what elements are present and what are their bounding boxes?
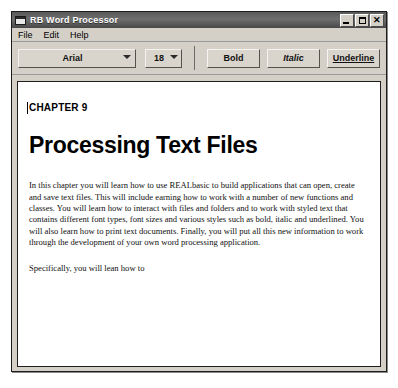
minimize-button[interactable] xyxy=(340,14,354,27)
bold-button-label: Bold xyxy=(224,53,244,63)
document-text-area[interactable]: CHAPTER 9 Processing Text Files In this … xyxy=(17,81,381,367)
window-document-icon xyxy=(15,16,26,25)
chevron-down-icon xyxy=(122,55,135,61)
text-caret xyxy=(27,102,28,114)
menu-item-help[interactable]: Help xyxy=(68,29,95,41)
document-heading: Processing Text Files xyxy=(29,133,368,157)
application-window: RB Word Processor ✕ File Edit Help Arial… xyxy=(11,11,387,372)
toolbar-separator xyxy=(194,46,195,70)
underline-button[interactable]: Underline xyxy=(327,49,380,68)
chevron-down-icon xyxy=(168,55,181,61)
bold-button[interactable]: Bold xyxy=(207,49,260,68)
italic-button[interactable]: Italic xyxy=(267,49,320,68)
menu-item-file[interactable]: File xyxy=(16,29,39,41)
font-family-select[interactable]: Arial xyxy=(18,49,136,68)
maximize-button[interactable] xyxy=(355,14,369,27)
underline-button-label: Underline xyxy=(333,53,375,63)
document-closing-line: Specifically, you will lean how to xyxy=(29,263,368,274)
close-button[interactable]: ✕ xyxy=(370,14,384,27)
font-size-select[interactable]: 18 xyxy=(145,49,182,68)
document-paragraph: In this chapter you will learn how to us… xyxy=(29,180,368,248)
menu-item-edit[interactable]: Edit xyxy=(42,29,66,41)
font-size-value: 18 xyxy=(146,53,168,63)
title-bar[interactable]: RB Word Processor ✕ xyxy=(12,12,386,28)
window-title: RB Word Processor xyxy=(30,15,339,25)
document-chapter-label: CHAPTER 9 xyxy=(29,102,368,113)
italic-button-label: Italic xyxy=(283,53,304,63)
font-family-value: Arial xyxy=(19,53,122,63)
menu-bar: File Edit Help xyxy=(12,28,386,42)
formatting-toolbar: Arial 18 Bold Italic Underline xyxy=(12,42,386,75)
